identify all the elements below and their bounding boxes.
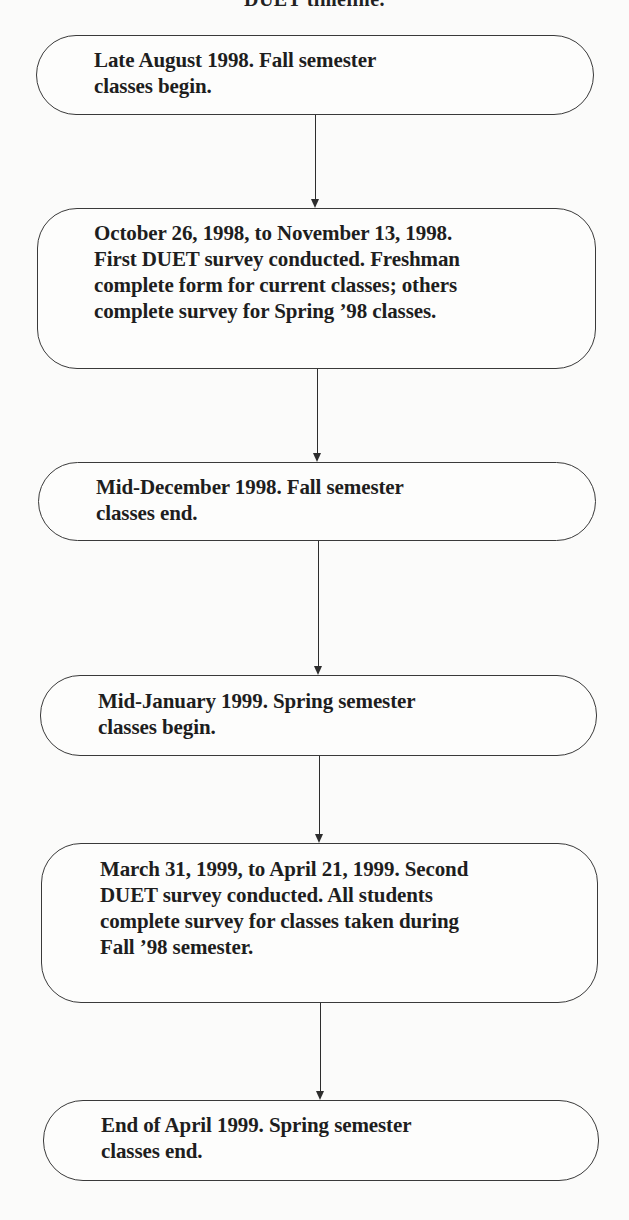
connector-line [319, 756, 320, 835]
node-text: March 31, 1999, to April 21, 1999. Secon… [100, 856, 468, 960]
node-text: October 26, 1998, to November 13, 1998. … [94, 220, 460, 324]
node-text: End of April 1999. Spring semester class… [101, 1112, 411, 1164]
arrow-down-icon [313, 453, 321, 462]
arrow-down-icon [316, 1091, 324, 1100]
connector-line [317, 369, 318, 454]
connector-line [318, 541, 319, 667]
node-line: Fall ’98 semester. [100, 934, 468, 960]
node-line: Mid-January 1999. Spring semester [98, 688, 416, 714]
node-line: classes end. [96, 500, 404, 526]
connector-line [315, 115, 316, 200]
node-line: March 31, 1999, to April 21, 1999. Secon… [100, 856, 468, 882]
node-line: End of April 1999. Spring semester [101, 1112, 411, 1138]
node-line: complete survey for classes taken during [100, 908, 468, 934]
node-line: classes begin. [94, 73, 376, 99]
node-line: classes end. [101, 1138, 411, 1164]
diagram-title: DUET timeline. [0, 0, 629, 11]
node-line: First DUET survey conducted. Freshman [94, 246, 460, 272]
node-text: Mid-January 1999. Spring semester classe… [98, 688, 416, 740]
arrow-down-icon [311, 199, 319, 208]
connector-line [320, 1003, 321, 1092]
node-line: complete survey for Spring ’98 classes. [94, 298, 460, 324]
arrow-down-icon [315, 834, 323, 843]
node-line: Late August 1998. Fall semester [94, 47, 376, 73]
node-text: Late August 1998. Fall semester classes … [94, 47, 376, 99]
node-line: Mid-December 1998. Fall semester [96, 474, 404, 500]
arrow-down-icon [314, 666, 322, 675]
node-line: DUET survey conducted. All students [100, 882, 468, 908]
node-line: classes begin. [98, 714, 416, 740]
node-text: Mid-December 1998. Fall semester classes… [96, 474, 404, 526]
node-line: October 26, 1998, to November 13, 1998. [94, 220, 460, 246]
node-line: complete form for current classes; other… [94, 272, 460, 298]
